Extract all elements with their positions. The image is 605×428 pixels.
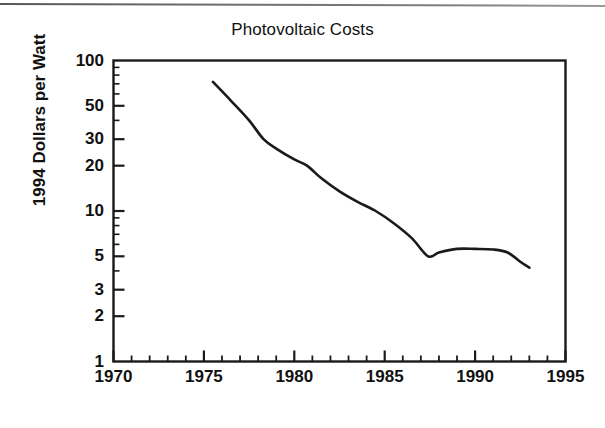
x-tick-label: 1990 <box>435 368 515 385</box>
x-tick-label: 1975 <box>164 368 244 385</box>
x-tick-label: 1995 <box>526 368 605 385</box>
x-tick-label: 1985 <box>345 368 425 385</box>
x-tick-label: 1980 <box>254 368 334 385</box>
x-tick-label: 1970 <box>74 368 154 385</box>
x-tick-labels: 197019751980198519901995 <box>0 0 605 428</box>
chart-figure: Photovoltaic Costs 1994 Dollars per Watt… <box>0 0 605 428</box>
